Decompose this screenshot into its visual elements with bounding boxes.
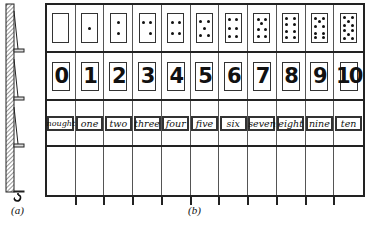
dot	[88, 27, 91, 30]
dot-card	[282, 13, 299, 43]
dot	[314, 25, 317, 28]
dot	[228, 35, 231, 38]
numeral-cell: 5	[191, 53, 220, 99]
empty-cell	[104, 147, 133, 195]
dot	[228, 27, 231, 30]
numeral-card: 5	[195, 62, 213, 91]
dot	[203, 27, 206, 30]
dot	[171, 21, 174, 24]
empty-cell	[162, 147, 191, 195]
word-card: nought	[47, 116, 74, 131]
dot	[285, 30, 288, 33]
numeral-card: 3	[138, 62, 156, 91]
numeral-card: 4	[167, 62, 185, 91]
dot	[293, 23, 296, 26]
dot	[264, 18, 267, 21]
word-cell: one	[76, 101, 105, 145]
dot	[235, 35, 238, 38]
numeral-card: 0	[52, 62, 70, 91]
dot	[343, 16, 346, 19]
dot-cell	[248, 5, 277, 51]
word-card: two	[105, 116, 132, 131]
empty-cell	[133, 147, 162, 195]
numeral-card: 10	[340, 62, 358, 91]
board-leg	[75, 196, 77, 205]
numeral-card: 2	[109, 62, 127, 91]
panel-a-label: (a)	[11, 204, 24, 216]
word-cell: six	[219, 101, 248, 145]
dot	[318, 20, 321, 23]
dot-cell	[191, 5, 220, 51]
dot-cell	[162, 5, 191, 51]
dot-cards-row	[47, 5, 363, 53]
board-leg	[247, 196, 249, 205]
board-leg	[218, 196, 220, 205]
empty-cell	[334, 147, 363, 195]
hook-icon	[12, 192, 22, 202]
dot	[235, 27, 238, 30]
dot	[322, 25, 325, 28]
dot-card	[139, 13, 156, 43]
dot	[264, 28, 267, 31]
board-leg	[276, 196, 278, 205]
numeral-card: 8	[282, 62, 300, 91]
dot	[264, 35, 267, 38]
dot	[322, 36, 325, 39]
numeral-card: 9	[310, 62, 328, 91]
dot	[351, 37, 354, 40]
empty-cell	[47, 147, 76, 195]
dot	[149, 32, 152, 35]
empty-row	[47, 147, 363, 195]
numeral-cell: 8	[277, 53, 306, 99]
dot	[207, 34, 210, 37]
word-cell: five	[191, 101, 220, 145]
word-cell: ten	[334, 101, 363, 145]
dot-cell	[104, 5, 133, 51]
dot-card	[81, 13, 98, 43]
dot-cell	[277, 5, 306, 51]
dot	[314, 36, 317, 39]
dot-card	[167, 13, 184, 43]
dot	[351, 16, 354, 19]
dot	[285, 17, 288, 20]
word-cell: four	[162, 101, 191, 145]
side-profile-diagram	[4, 3, 26, 193]
dot	[343, 24, 346, 27]
numeral-cards-row: 012345678910	[47, 53, 363, 101]
dot	[347, 33, 350, 36]
empty-cell	[76, 147, 105, 195]
word-cards-row: noughtonetwothreefourfivesixseveneightni…	[47, 101, 363, 147]
dot	[142, 21, 145, 24]
dot	[285, 23, 288, 26]
dot-card	[110, 13, 127, 43]
dot	[347, 20, 350, 23]
dot-cell	[133, 5, 162, 51]
board-leg	[161, 196, 163, 205]
word-cell: seven	[248, 101, 277, 145]
numeral-cell: 2	[104, 53, 133, 99]
dot	[117, 32, 120, 35]
numeral-cell: 4	[162, 53, 191, 99]
number-board: 012345678910 noughtonetwothreefourfivesi…	[45, 3, 365, 197]
word-card: six	[220, 116, 247, 131]
dot	[314, 32, 317, 35]
dot-cell	[219, 5, 248, 51]
dot-cell	[334, 5, 363, 51]
numeral-cell: 1	[76, 53, 105, 99]
dot	[293, 30, 296, 33]
numeral-cell: 10	[334, 53, 363, 99]
dot	[343, 29, 346, 32]
dot	[199, 34, 202, 37]
dot	[285, 36, 288, 39]
dot	[207, 20, 210, 23]
numeral-cell: 7	[248, 53, 277, 99]
empty-cell	[306, 147, 335, 195]
word-card: eight	[277, 116, 304, 131]
dot	[314, 17, 317, 20]
dot-card	[196, 13, 213, 43]
dot-card	[253, 13, 270, 43]
panel-b-label: (b)	[188, 204, 201, 216]
numeral-cell: 0	[47, 53, 76, 99]
dot-card	[52, 13, 69, 43]
empty-cell	[277, 147, 306, 195]
